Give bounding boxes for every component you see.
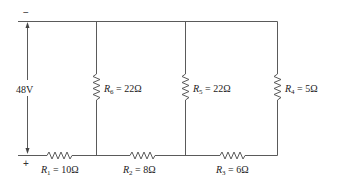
r2-sub: 2 [129,169,133,177]
r1-sub: 1 [47,169,51,177]
r5-sub: 5 [199,88,203,96]
resistor-r2-symbol [130,152,155,159]
resistor-r5-label: R5 = 22Ω [193,84,231,94]
arrow-down-head-icon [26,148,30,154]
r3-sub: 3 [222,169,226,177]
r4-value: = 5Ω [297,83,318,94]
resistor-r6-label: R6 = 22Ω [104,84,142,94]
resistor-r5-symbol [182,74,189,100]
negative-terminal: − [23,8,29,18]
positive-terminal: + [23,159,29,169]
resistor-r1-label: R1 = 10Ω [41,165,79,175]
r2-value: = 8Ω [135,164,156,175]
resistor-r4-label: R4 = 5Ω [285,84,318,94]
r5-value: = 22Ω [205,83,231,94]
r1-value: = 10Ω [53,164,79,175]
resistor-r6-symbol [93,74,100,100]
r6-value: = 22Ω [116,83,142,94]
resistor-r3-symbol [220,152,245,159]
r4-sub: 4 [291,88,295,96]
voltage-label: 48V [16,84,33,96]
resistor-r2-label: R2 = 8Ω [123,165,156,175]
resistor-r1-symbol [47,152,72,159]
r6-sub: 6 [110,88,114,96]
arrow-up-head-icon [26,22,30,28]
resistor-r4-symbol [274,74,281,100]
resistor-r3-label: R3 = 6Ω [216,165,249,175]
r3-value: = 6Ω [228,164,249,175]
